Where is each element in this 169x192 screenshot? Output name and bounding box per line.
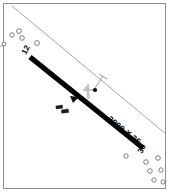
obstacle-marker [161,180,165,184]
obstacle-marker [35,41,40,46]
building-hangar-2 [61,109,68,113]
obstacle-marker [20,36,25,41]
building-hangar-1 [56,105,63,109]
runway-end-12-label: 12 [20,43,32,56]
diagram-canvas: 3000 X 35 12 30 [0,0,169,192]
airport-runway-diagram: 3000 X 35 12 30 [0,0,169,192]
obstacle-marker [148,169,153,174]
obstacle-marker [159,168,163,172]
obstacle-marker [152,178,156,182]
obstacle-marker [156,156,161,161]
obstacle-marker [17,29,22,34]
taxiway-connector [70,96,79,103]
property-boundary-line [12,6,166,134]
runway-dimension-label: 3000 X 35 [106,114,143,147]
obstacle-marker [10,33,14,37]
windsock-segmented-circle-icon [83,84,93,99]
airport-reference-point [93,88,97,92]
obstacle-marker [124,154,128,158]
obstacle-marker [2,42,6,46]
obstacle-marker [144,160,149,165]
buildings-group [56,105,69,113]
diagram-frame [4,4,166,189]
